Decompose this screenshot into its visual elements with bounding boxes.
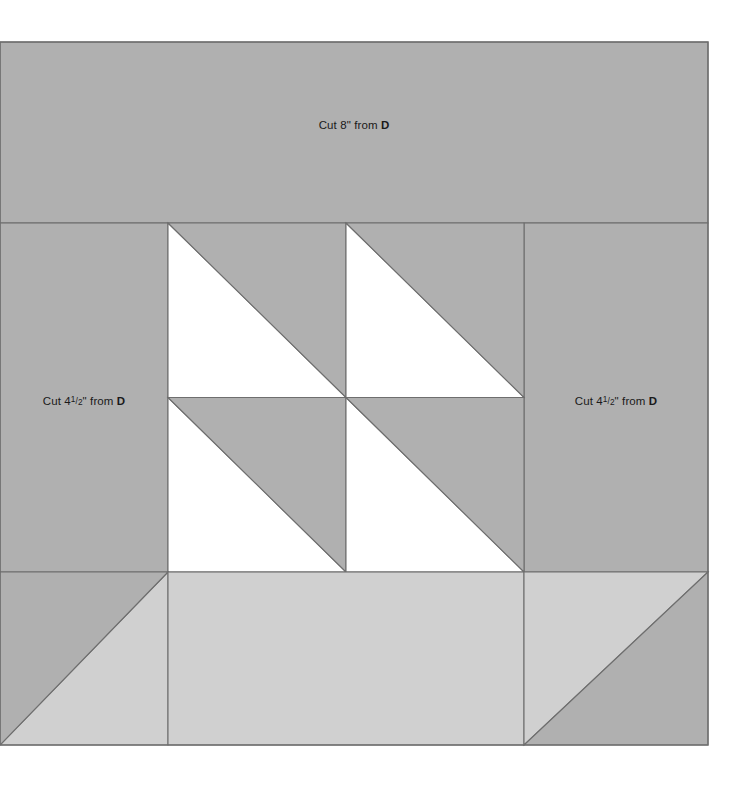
- label-cut-left: Cut 41/2" from D: [0, 396, 168, 408]
- hst-bottom-left: [168, 398, 346, 573]
- bottom-center-strip: [168, 572, 524, 745]
- label-right-fraction: 1/2: [603, 398, 615, 407]
- diagram-canvas: Cut 8" from D Cut 41/2" from D Cut 41/2"…: [0, 0, 745, 790]
- hst-bottom-right: [346, 398, 524, 573]
- label-cut-right: Cut 41/2" from D: [524, 396, 708, 408]
- label-right-fraction-denominator: 2: [610, 399, 615, 408]
- label-left-prefix: Cut 4: [43, 395, 71, 407]
- label-top-fabric: D: [381, 119, 389, 131]
- top-border-strip: [0, 42, 708, 223]
- label-right-suffix: " from: [615, 395, 649, 407]
- label-left-fraction: 1/2: [71, 398, 83, 407]
- hst-top-right: [346, 223, 524, 398]
- label-cut-top: Cut 8" from D: [0, 120, 708, 132]
- label-left-suffix: " from: [83, 395, 117, 407]
- label-right-fabric: D: [649, 395, 657, 407]
- label-right-prefix: Cut 4: [575, 395, 603, 407]
- bottom-right-triangle-unit: [524, 572, 708, 745]
- hst-top-left: [168, 223, 346, 398]
- label-left-fabric: D: [117, 395, 125, 407]
- label-top-prefix: Cut 8" from: [319, 119, 381, 131]
- label-left-fraction-denominator: 2: [78, 399, 83, 408]
- bottom-left-triangle-unit: [0, 572, 168, 745]
